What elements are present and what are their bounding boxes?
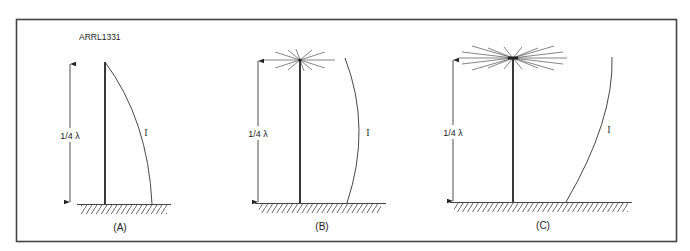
panel-caption: (A) [113,222,126,233]
ground-hatch [259,204,381,213]
figure-id-label: ARRL1331 [79,32,121,42]
current-label: I [607,124,610,135]
panel-a: 1/4 λ I (A) [56,62,171,233]
height-label: 1/4 λ [60,131,80,141]
panel-caption: (C) [536,220,550,231]
ground-hatch [81,205,167,214]
vertical-antenna-current-diagram: ARRL1331 1/4 λ I (A) 1/4 λ I [0,0,690,251]
current-curve [566,57,612,202]
ground-hatch [454,203,628,212]
panel-caption: (B) [315,221,328,232]
current-label: I [144,127,147,138]
height-label: 1/4 λ [443,128,463,138]
current-label: I [366,127,369,138]
height-label: 1/4 λ [248,129,268,139]
panel-b: 1/4 λ I (B) [244,49,386,232]
panel-c: 1/4 λ I (C) [439,46,632,231]
current-curve [345,58,359,203]
